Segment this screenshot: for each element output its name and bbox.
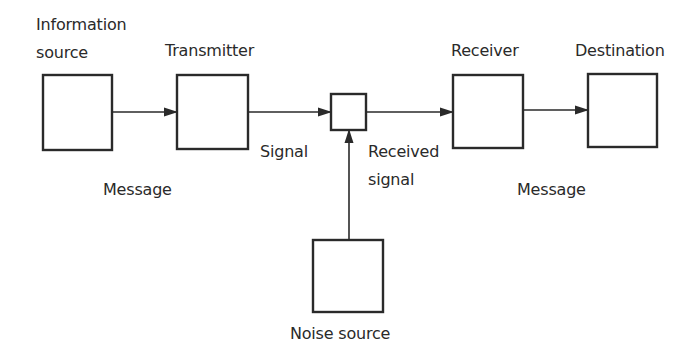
- communication-diagram: Information source Transmitter Receiver …: [0, 0, 682, 360]
- receiver-box: [453, 75, 523, 148]
- information-source-label-line1: Information: [36, 10, 126, 39]
- signal-label: Signal: [260, 137, 308, 166]
- destination-box: [588, 74, 657, 147]
- received-signal-label-line2: signal: [368, 165, 414, 194]
- receiver-label: Receiver: [451, 36, 519, 65]
- message-label-left: Message: [103, 175, 172, 204]
- transmitter-box: [177, 75, 248, 149]
- noise-source-box: [313, 240, 383, 312]
- destination-label: Destination: [575, 36, 665, 65]
- message-label-right: Message: [517, 175, 586, 204]
- transmitter-label: Transmitter: [165, 36, 254, 65]
- information-source-box: [43, 75, 112, 150]
- noise-source-label: Noise source: [290, 319, 390, 348]
- received-signal-label-line1: Received: [368, 137, 439, 166]
- information-source-label-line2: source: [36, 38, 88, 67]
- channel-box: [331, 94, 366, 130]
